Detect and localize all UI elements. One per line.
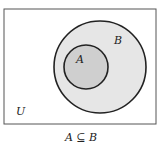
- set-a-label: A: [75, 53, 84, 66]
- set-b-label: B: [113, 34, 122, 47]
- caption: A ⊆ B: [64, 131, 97, 144]
- set-a-circle: [64, 45, 108, 89]
- universe-label: U: [16, 105, 26, 118]
- venn-diagram: B A U A ⊆ B: [0, 0, 162, 155]
